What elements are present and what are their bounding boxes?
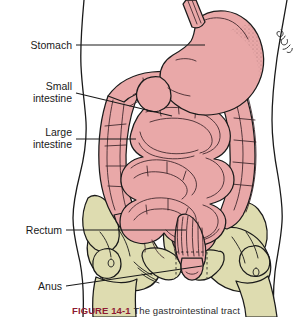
labels-group: Stomach Small intestine Large intestine … bbox=[26, 39, 72, 292]
figure-caption-bar: FIGURE 14-1 The gastrointestinal tract bbox=[0, 306, 305, 317]
body-outline-left bbox=[73, 0, 86, 317]
label-rectum: Rectum bbox=[26, 224, 62, 236]
label-large-intestine-line2: intestine bbox=[33, 138, 72, 150]
label-large-intestine-line1: Large bbox=[45, 126, 72, 138]
label-small-intestine-line2: intestine bbox=[33, 92, 72, 104]
femur-left-head bbox=[93, 249, 121, 279]
anatomy-illustration: Stomach Small intestine Large intestine … bbox=[0, 0, 305, 317]
caption-body: The gastrointestinal tract bbox=[133, 306, 240, 316]
pylorus bbox=[137, 77, 171, 112]
caption-number: FIGURE 14-1 bbox=[72, 306, 131, 316]
stomach-group bbox=[137, 0, 272, 120]
femur-right-head bbox=[239, 246, 269, 277]
label-stomach: Stomach bbox=[31, 39, 73, 51]
label-anus: Anus bbox=[38, 280, 62, 292]
figure-caption: FIGURE 14-1 The gastrointestinal tract bbox=[72, 306, 240, 316]
figure-container: Stomach Small intestine Large intestine … bbox=[0, 0, 305, 317]
body-outline-right bbox=[272, 0, 287, 317]
label-small-intestine-line1: Small bbox=[46, 80, 72, 92]
